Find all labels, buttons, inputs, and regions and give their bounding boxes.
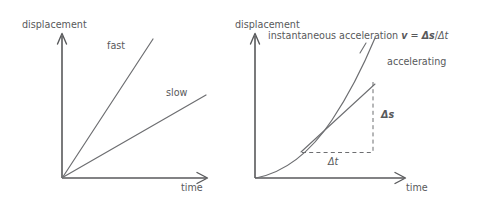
- right-panel-delta-triangle: [302, 82, 373, 153]
- formula-delta-t: Δt: [438, 30, 448, 41]
- accelerating-series-label: accelerating: [387, 57, 446, 67]
- physics-displacement-time-figure: displacement time fast slow displacement…: [0, 0, 481, 209]
- slow-line: [63, 95, 207, 178]
- left-y-axis-label: displacement: [22, 20, 87, 30]
- instantaneous-acceleration-text: instantaneous acceleration: [268, 30, 398, 41]
- fast-series-label: fast: [107, 41, 125, 51]
- right-panel-series: [256, 38, 375, 178]
- accelerating-curve: [256, 38, 375, 178]
- tangent-line: [301, 84, 375, 152]
- fast-line: [63, 39, 154, 178]
- formula-equals-sign: =: [408, 30, 422, 41]
- instantaneous-acceleration-annotation: instantaneous acceleration v = Δs/Δt: [268, 31, 448, 41]
- left-x-axis-label: time: [181, 183, 203, 193]
- delta-t-label: Δt: [328, 157, 338, 167]
- right-x-axis-label: time: [406, 183, 428, 193]
- delta-s-label: Δs: [381, 110, 394, 120]
- formula-delta-s: Δs: [422, 30, 435, 41]
- right-y-axis-label: displacement: [235, 20, 300, 30]
- left-panel-series: [63, 39, 207, 178]
- instantaneous-acceleration-leader: [360, 43, 366, 53]
- left-panel-axes: [58, 34, 208, 184]
- slow-series-label: slow: [166, 88, 187, 98]
